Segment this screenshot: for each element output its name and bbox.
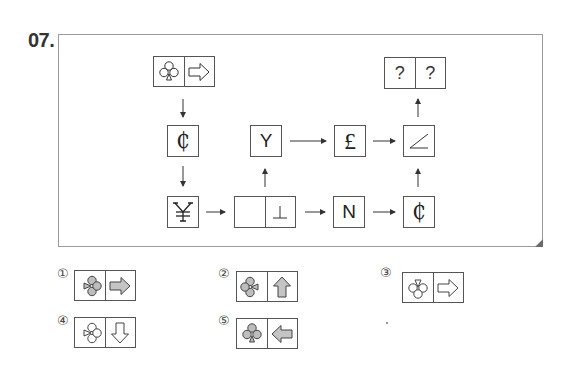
arrow-cell xyxy=(184,57,215,86)
angle-box xyxy=(403,125,435,157)
cedi-box-bottom: ₵ xyxy=(403,196,435,228)
unknown-answer-box: ? ? xyxy=(384,57,446,89)
option-2[interactable] xyxy=(236,271,298,302)
y-letter: Y xyxy=(260,130,273,152)
perpendicular-cell xyxy=(265,197,296,227)
flow-arrows xyxy=(0,0,571,367)
option-4-label: ④ xyxy=(57,313,69,328)
empty-cell xyxy=(235,197,265,227)
arrow-up-gray-icon xyxy=(272,275,292,299)
question-mark-right: ? xyxy=(425,63,435,84)
club-gray-triangle-left-icon xyxy=(78,275,102,297)
question-mark-left: ? xyxy=(395,63,405,84)
option-5[interactable] xyxy=(236,318,298,349)
club-icon xyxy=(158,60,180,84)
yen-box xyxy=(167,196,199,228)
option-5-label: ⑤ xyxy=(218,313,230,328)
option-2-label: ② xyxy=(218,266,230,281)
option-1[interactable] xyxy=(74,270,136,301)
pound-symbol: £ xyxy=(344,129,356,153)
club-cell xyxy=(154,57,184,86)
arrow-right-gray-icon xyxy=(108,276,132,296)
stray-dot xyxy=(386,322,388,324)
start-box xyxy=(153,56,215,87)
arrow-left-gray-icon xyxy=(270,324,294,344)
club-gray-triangle-bottom-icon xyxy=(241,322,263,346)
option-3[interactable] xyxy=(402,272,464,303)
cedi-symbol: ₵ xyxy=(176,130,190,152)
option-3-label: ③ xyxy=(380,265,392,280)
y-box: Y xyxy=(250,125,282,157)
club-outline-triangle-left-icon xyxy=(78,322,102,344)
perpendicular-icon xyxy=(270,203,290,221)
arrow-down-outline-icon xyxy=(110,321,130,345)
arrow-right-icon xyxy=(187,62,211,82)
pound-box: £ xyxy=(334,125,366,157)
option-1-label: ① xyxy=(57,266,69,281)
cedi-box-top: ₵ xyxy=(167,125,199,157)
arrow-right-outline-icon xyxy=(436,278,460,298)
club-gray-triangle-right-icon xyxy=(240,276,264,298)
cedi-symbol: ₵ xyxy=(412,201,426,223)
club-outline-triangle-top-icon xyxy=(407,276,429,300)
n-letter: N xyxy=(342,201,356,223)
n-box: N xyxy=(333,196,365,228)
option-4[interactable] xyxy=(74,317,136,348)
split-box xyxy=(234,196,296,228)
yen-double-bar-icon xyxy=(172,200,194,224)
angle-icon xyxy=(408,131,430,151)
